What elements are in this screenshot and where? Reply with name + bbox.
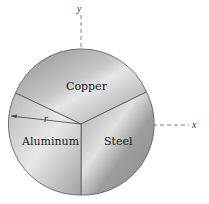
aluminum-label: Aluminum bbox=[21, 135, 80, 148]
x-axis-label: x bbox=[191, 119, 197, 130]
composite-disk-diagram: y x r Copper Steel Aluminum bbox=[0, 0, 209, 204]
copper-label: Copper bbox=[66, 80, 108, 93]
steel-label: Steel bbox=[104, 135, 133, 148]
radius-label: r bbox=[44, 113, 48, 124]
y-axis-label: y bbox=[76, 3, 82, 14]
